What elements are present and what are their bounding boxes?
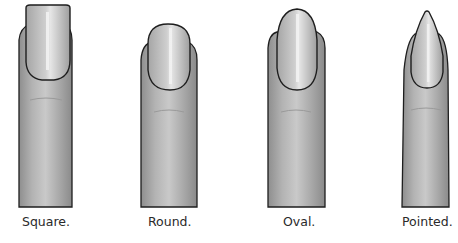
square-nail-illustration [14,0,78,210]
label-oval: Oval. [283,214,315,229]
round-nail-illustration [138,0,202,210]
label-round: Round. [148,214,192,229]
finger-round [138,0,202,210]
label-square: Square. [22,214,70,229]
finger-square [14,0,78,210]
label-pointed: Pointed. [402,214,453,229]
finger-pointed [399,0,453,210]
pointed-nail-illustration [399,0,453,210]
oval-nail-illustration [265,0,329,210]
finger-oval [265,0,329,210]
